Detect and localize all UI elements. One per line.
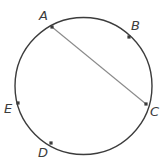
point-marker-d bbox=[49, 141, 52, 144]
circle-outline bbox=[15, 18, 152, 155]
point-markers bbox=[16, 25, 147, 144]
point-labels: ABCDE bbox=[4, 8, 160, 160]
point-label-b: B bbox=[131, 18, 140, 33]
point-label-a: A bbox=[38, 8, 48, 23]
point-label-e: E bbox=[4, 101, 13, 116]
chord-a-c bbox=[52, 27, 146, 104]
circle-diagram: ABCDE bbox=[0, 0, 168, 165]
point-marker-e bbox=[16, 101, 19, 104]
point-marker-a bbox=[50, 25, 53, 28]
point-label-d: D bbox=[38, 145, 48, 160]
point-marker-c bbox=[144, 102, 147, 105]
circle-diagram-canvas: ABCDE bbox=[0, 0, 168, 165]
point-marker-b bbox=[127, 35, 130, 38]
point-label-c: C bbox=[150, 104, 160, 119]
